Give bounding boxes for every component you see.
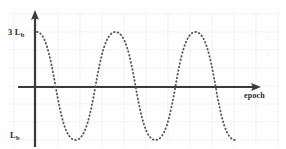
y-axis-bottom-label-text: L	[10, 130, 16, 140]
learning-rate-chart-figure: 3 Lb Lb epoch ˄ ˄	[0, 0, 286, 149]
y-axis-top-label: 3 Lb	[8, 28, 24, 37]
y-axis-top-label-text: 3 L	[8, 27, 21, 37]
x-axis-label: epoch	[244, 92, 265, 100]
y-axis-top-label-subscript: b	[21, 31, 25, 38]
y-axis-bottom-label-subscript: b	[16, 134, 20, 141]
chevron-up-icon: ˄	[266, 34, 271, 43]
chevron-up-icon-secondary: ˄	[266, 50, 271, 59]
chart-plot-area	[0, 0, 286, 149]
x-axis-line	[18, 83, 261, 91]
y-axis-bottom-label: Lb	[10, 131, 20, 140]
y-axis-line	[31, 10, 39, 147]
